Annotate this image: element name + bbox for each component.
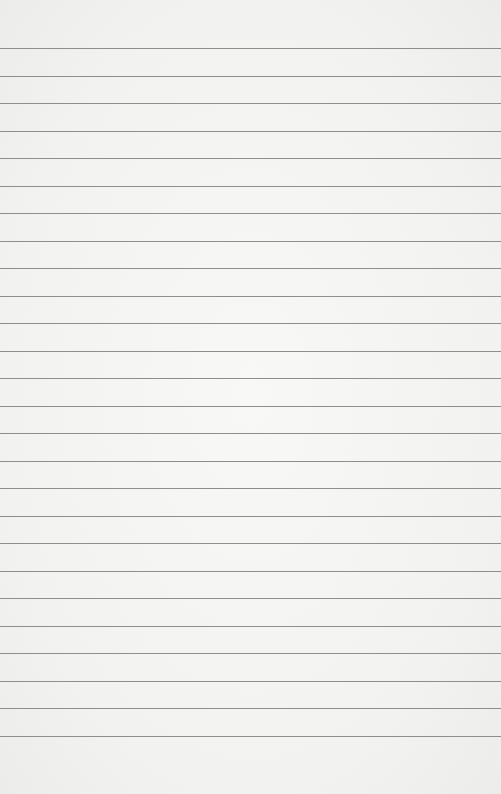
ruled-line xyxy=(0,158,501,159)
ruled-line xyxy=(0,351,501,352)
ruled-line xyxy=(0,571,501,572)
ruled-line xyxy=(0,653,501,654)
ruled-line xyxy=(0,543,501,544)
ruled-line xyxy=(0,488,501,489)
ruled-line xyxy=(0,48,501,49)
ruled-line xyxy=(0,76,501,77)
ruled-line xyxy=(0,461,501,462)
ruled-line xyxy=(0,241,501,242)
ruled-line xyxy=(0,186,501,187)
ruled-line xyxy=(0,626,501,627)
ruled-line xyxy=(0,268,501,269)
ruled-line xyxy=(0,598,501,599)
ruled-line xyxy=(0,708,501,709)
ruled-line xyxy=(0,736,501,737)
ruled-line xyxy=(0,433,501,434)
lined-paper xyxy=(0,0,501,794)
ruled-line xyxy=(0,296,501,297)
ruled-line xyxy=(0,681,501,682)
ruled-line xyxy=(0,103,501,104)
ruled-line xyxy=(0,213,501,214)
ruled-line xyxy=(0,378,501,379)
ruled-line xyxy=(0,323,501,324)
ruled-line xyxy=(0,516,501,517)
ruled-line xyxy=(0,406,501,407)
ruled-line xyxy=(0,131,501,132)
